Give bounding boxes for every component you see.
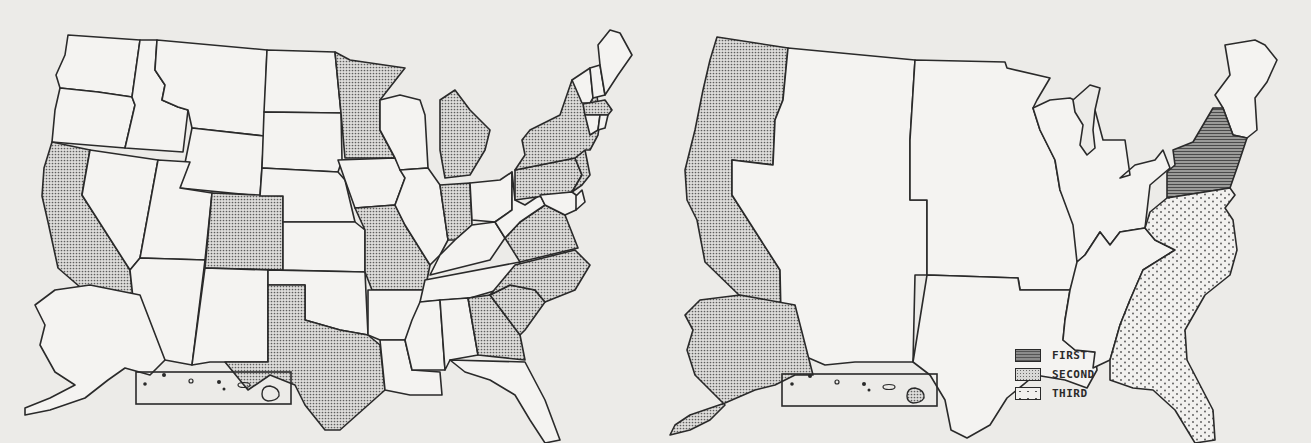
state-kansas — [283, 222, 365, 272]
state-oregon — [52, 88, 135, 148]
state-map-svg — [0, 0, 660, 443]
region-west-north-central — [910, 60, 1080, 290]
state-michigan — [440, 90, 490, 178]
state-wyoming — [180, 128, 264, 196]
map-legend: FIRST SECOND THIRD — [1015, 346, 1095, 403]
state-alaska — [25, 285, 165, 415]
legend-item-second: SECOND — [1015, 365, 1095, 383]
first-pattern-swatch — [1015, 349, 1041, 362]
region-map-svg — [655, 0, 1311, 443]
legend-item-first: FIRST — [1015, 346, 1095, 364]
legend-label: FIRST — [1052, 349, 1088, 362]
legend-label: SECOND — [1052, 368, 1095, 381]
state-washington — [56, 35, 140, 97]
state-new-mexico — [192, 268, 268, 365]
state-delaware — [576, 190, 585, 210]
state-florida — [450, 360, 560, 443]
state-map — [0, 0, 660, 443]
state-maine — [598, 30, 632, 95]
second-pattern-swatch — [1015, 368, 1041, 381]
state-south-dakota — [262, 112, 342, 172]
region-alaska — [670, 295, 813, 435]
state-north-dakota — [264, 50, 341, 113]
legend-label: THIRD — [1052, 387, 1088, 400]
hawaii-inset — [782, 374, 937, 406]
state-rhode-island — [598, 115, 608, 130]
legend-item-third: THIRD — [1015, 384, 1095, 402]
third-pattern-swatch — [1015, 387, 1041, 400]
region-map — [655, 0, 1311, 443]
hawaii-big-island — [907, 388, 924, 403]
state-colorado — [205, 193, 283, 270]
